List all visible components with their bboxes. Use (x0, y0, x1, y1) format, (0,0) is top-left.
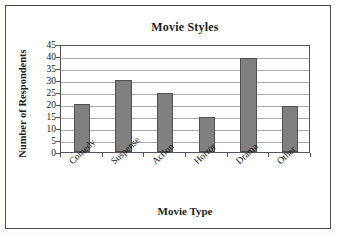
y-tick-mark (56, 57, 60, 58)
gridline (61, 70, 309, 71)
y-tick-mark (56, 69, 60, 70)
y-tick-label: 0 (32, 149, 56, 158)
y-tick-label: 30 (32, 77, 56, 86)
y-axis-title: Number of Respondents (17, 44, 28, 164)
y-tick-label: 45 (32, 41, 56, 50)
y-tick-mark (56, 117, 60, 118)
y-tick-mark (56, 93, 60, 94)
x-tick-mark (185, 153, 186, 157)
y-tick-label: 40 (32, 53, 56, 62)
y-tick-label: 25 (32, 89, 56, 98)
y-tick-mark (56, 129, 60, 130)
gridline (61, 130, 309, 131)
y-tick-mark (56, 141, 60, 142)
plot-area (60, 45, 310, 153)
x-tick-mark (102, 153, 103, 157)
x-tick-mark (227, 153, 228, 157)
gridline (61, 82, 309, 83)
x-tick-mark (60, 153, 61, 157)
y-tick-label: 35 (32, 65, 56, 74)
y-tick-label: 10 (32, 125, 56, 134)
y-tick-label: 20 (32, 101, 56, 110)
y-tick-mark (56, 45, 60, 46)
x-tick-mark (310, 153, 311, 157)
chart-title: Movie Styles (60, 20, 310, 35)
gridline (61, 118, 309, 119)
bar-drama (240, 58, 257, 152)
gridline (61, 142, 309, 143)
x-tick-mark (143, 153, 144, 157)
y-tick-label: 5 (32, 137, 56, 146)
x-axis-title: Movie Type (60, 205, 310, 217)
gridline (61, 106, 309, 107)
gridline (61, 58, 309, 59)
y-tick-mark (56, 105, 60, 106)
chart-figure: Movie Styles Number of Respondents 05101… (0, 0, 338, 237)
gridline (61, 94, 309, 95)
y-tick-label: 15 (32, 113, 56, 122)
y-tick-mark (56, 81, 60, 82)
x-tick-mark (268, 153, 269, 157)
